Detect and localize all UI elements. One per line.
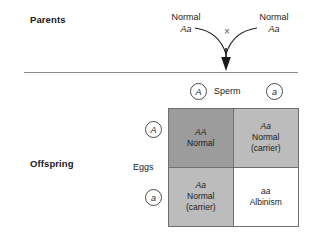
offspring-row-label: Offspring	[30, 158, 74, 169]
cell-phenotype: Albinism	[250, 197, 282, 208]
sperm-allele-a-recessive: a	[266, 83, 283, 100]
eggs-axis-label: Eggs	[133, 162, 154, 172]
sperm-allele-a-dominant: A	[190, 83, 207, 100]
cell-phenotype: Normal	[252, 132, 279, 143]
egg-allele-a-recessive: a	[145, 189, 162, 206]
punnett-cell-aa-dominant: AA Normal	[169, 109, 234, 168]
parent-right-phenotype: Normal	[246, 12, 302, 24]
cell-phenotype: Normal	[187, 138, 214, 149]
punnett-cell-albinism: aa Albinism	[234, 168, 299, 227]
egg-allele-a-dominant: A	[145, 121, 162, 138]
section-divider	[24, 72, 298, 73]
cell-genotype: Aa	[196, 180, 206, 191]
punnett-square-grid: AA Normal Aa Normal (carrier) Aa Normal …	[168, 108, 299, 227]
cross-arrow-icon	[193, 24, 259, 72]
cell-genotype: AA	[195, 127, 206, 138]
cell-note: (carrier)	[251, 143, 281, 154]
cell-genotype: aa	[261, 186, 270, 197]
cell-phenotype: Normal	[187, 191, 214, 202]
sperm-axis-label: Sperm	[214, 86, 241, 96]
cell-genotype: Aa	[261, 121, 271, 132]
cell-note: (carrier)	[186, 202, 216, 213]
punnett-cell-carrier-bottom: Aa Normal (carrier)	[169, 168, 234, 227]
parents-row-label: Parents	[30, 14, 66, 25]
punnett-cell-carrier-top: Aa Normal (carrier)	[234, 109, 299, 168]
parent-left-phenotype: Normal	[158, 12, 214, 24]
punnett-square-diagram: Parents Offspring Normal Aa Normal Aa × …	[0, 0, 312, 242]
